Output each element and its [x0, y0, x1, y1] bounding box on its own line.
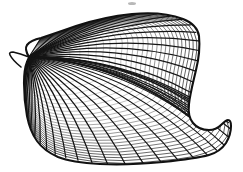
scan-speck: [128, 2, 136, 5]
bivalve-shell-drawing: [0, 0, 243, 172]
illustration-canvas: Monochrome scientific line drawing of a …: [0, 0, 243, 172]
